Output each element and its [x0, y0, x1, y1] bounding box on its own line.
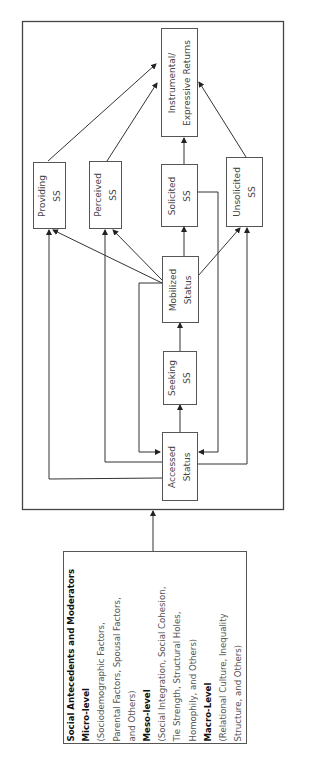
node-accessed-status: AccessedStatus	[162, 432, 198, 501]
arrow-mobilized-to-perceived	[113, 230, 162, 280]
arrow-mobilized-to-accessed	[139, 283, 162, 452]
arrow-mobilized-to-providing	[53, 230, 162, 283]
meso-level-heading: Meso-level	[140, 554, 155, 741]
arrow-providing-to-instrumental	[48, 64, 156, 161]
antecedents-box: Social Antecedents and Moderators Micro-…	[63, 551, 247, 744]
node-perceived-ss: PerceivedSS	[89, 161, 122, 229]
arrow-accessed-to-unsolicited	[197, 228, 247, 464]
outer-frame	[23, 22, 284, 510]
micro-level-line: (Sociodemographic Factors,	[94, 554, 109, 741]
arrow-accessed-to-perceived	[105, 230, 162, 462]
arrow-mobilized-to-unsolicited	[198, 228, 240, 276]
node-solicited-ss: SolicitedSS	[161, 164, 198, 227]
micro-level-heading: Micro-level	[79, 554, 94, 741]
node-providing-ss: ProvidingSS	[33, 162, 66, 229]
node-instrumental-returns: Instrumental/Expressive Returns	[161, 28, 198, 137]
node-mobilized-status: MobilizedStatus	[162, 256, 199, 323]
meso-level-line: (Social Integration, Social Cohesion,	[155, 554, 170, 741]
micro-level-line: Parental Factors, Spousal Factors,	[109, 554, 124, 741]
arrow-perceived-to-instrumental	[107, 83, 157, 161]
meso-level-line: Tie Strength, Structural Holes,	[170, 554, 185, 741]
arrow-unsolicited-to-instrumental	[199, 82, 246, 157]
arrow-solicited-to-accessed	[197, 192, 218, 452]
macro-level-line: (Relational Culture, Inequality	[216, 554, 231, 741]
antecedents-title: Social Antecedents and Moderators	[64, 554, 79, 741]
macro-level-line: Structure, and Others)	[231, 554, 246, 741]
meso-level-line: Homophily, and Others)	[185, 554, 200, 741]
node-unsolicited-ss: UnsolicitedSS	[226, 157, 263, 227]
macro-level-heading: Macro-Level	[201, 554, 216, 741]
node-seeking-ss: SeekingSS	[163, 351, 197, 405]
micro-level-line: and Others)	[125, 554, 140, 741]
